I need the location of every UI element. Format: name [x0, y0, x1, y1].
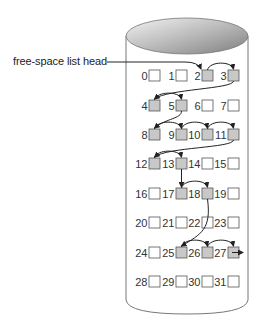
allocated-block — [176, 276, 187, 287]
block-number-label: 15 — [214, 158, 226, 170]
disk-top — [126, 18, 248, 54]
disk-block: 2 — [194, 70, 213, 82]
free-block — [202, 247, 213, 258]
block-number-label: 3 — [220, 70, 226, 82]
disk-block: 7 — [220, 100, 239, 112]
free-block — [176, 247, 187, 258]
allocated-block — [176, 217, 187, 228]
block-number-label: 14 — [188, 158, 200, 170]
free-block — [149, 100, 160, 111]
block-number-label: 11 — [215, 129, 226, 141]
allocated-block — [228, 276, 239, 287]
disk-block: 0 — [141, 70, 160, 82]
block-number-label: 28 — [135, 276, 147, 288]
block-number-label: 0 — [141, 70, 147, 82]
free-block — [202, 129, 213, 140]
free-block — [176, 129, 187, 140]
block-number-label: 7 — [220, 100, 226, 112]
block-number-label: 1 — [168, 70, 174, 82]
allocated-block — [228, 158, 239, 169]
free-block — [176, 100, 187, 111]
allocated-block — [202, 100, 213, 111]
block-number-label: 2 — [194, 70, 200, 82]
free-block — [149, 158, 160, 169]
allocated-block — [149, 217, 160, 228]
block-number-label: 30 — [188, 276, 200, 288]
block-number-label: 5 — [168, 100, 174, 112]
block-number-label: 27 — [214, 247, 226, 259]
free-block — [228, 70, 239, 81]
block-number-label: 24 — [135, 247, 147, 259]
block-number-label: 31 — [214, 276, 226, 288]
block-number-label: 6 — [194, 100, 200, 112]
free-block — [228, 129, 239, 140]
allocated-block — [202, 158, 213, 169]
block-number-label: 25 — [162, 247, 174, 259]
free-block — [149, 129, 160, 140]
allocated-block — [228, 217, 239, 228]
disk-block: 4 — [141, 100, 160, 112]
block-number-label: 21 — [162, 217, 174, 229]
disk-block: 9 — [168, 129, 187, 141]
disk-block: 3 — [220, 70, 239, 82]
block-number-label: 23 — [214, 217, 226, 229]
block-number-label: 10 — [188, 129, 200, 141]
block-number-label: 22 — [188, 217, 200, 229]
block-number-label: 8 — [141, 129, 147, 141]
block-number-label: 19 — [214, 188, 226, 200]
allocated-block — [228, 100, 239, 111]
allocated-block — [202, 276, 213, 287]
block-number-label: 4 — [141, 100, 147, 112]
allocated-block — [149, 247, 160, 258]
allocated-block — [228, 188, 239, 199]
block-number-label: 26 — [188, 247, 200, 259]
free-block — [202, 70, 213, 81]
free-block — [202, 188, 213, 199]
free-block — [176, 158, 187, 169]
block-number-label: 13 — [162, 158, 174, 170]
allocated-block — [149, 276, 160, 287]
free-block — [176, 188, 187, 199]
block-number-label: 9 — [168, 129, 174, 141]
block-number-label: 12 — [135, 158, 147, 170]
disk-block: 8 — [141, 129, 160, 141]
block-number-label: 29 — [162, 276, 174, 288]
allocated-block — [149, 188, 160, 199]
block-number-label: 20 — [135, 217, 147, 229]
allocated-block — [149, 70, 160, 81]
disk-free-list-diagram: 0123456789101112131415161718192021222324… — [0, 0, 264, 328]
block-number-label: 17 — [162, 188, 174, 200]
allocated-block — [176, 70, 187, 81]
free-space-list-head-label: free-space list head — [13, 55, 107, 67]
block-number-label: 18 — [188, 188, 200, 200]
block-number-label: 16 — [135, 188, 147, 200]
disk-block: 5 — [168, 100, 187, 112]
disk-block: 1 — [168, 70, 187, 82]
disk-block: 6 — [194, 100, 213, 112]
